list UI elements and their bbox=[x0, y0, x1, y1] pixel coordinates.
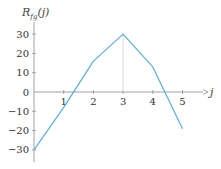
labels: 3020100−10−20−3012345Rfg(j)j bbox=[8, 6, 214, 155]
x-axis-arrow-icon bbox=[203, 90, 208, 95]
x-tick-label: 2 bbox=[90, 96, 96, 107]
y-tick-label: −30 bbox=[8, 144, 29, 155]
y-tick-label: −10 bbox=[8, 106, 29, 117]
x-tick-label: 4 bbox=[150, 96, 156, 107]
axes bbox=[32, 22, 208, 162]
cross-correlation-chart: 3020100−10−20−3012345Rfg(j)j bbox=[0, 0, 221, 169]
x-tick-label: 3 bbox=[120, 96, 126, 107]
y-tick-label: −20 bbox=[8, 125, 29, 136]
y-tick-label: 10 bbox=[16, 67, 29, 78]
y-tick-label: 20 bbox=[16, 48, 29, 59]
y-axis-title: Rfg(j) bbox=[21, 6, 49, 21]
y-tick-label: 30 bbox=[16, 29, 29, 40]
x-axis-title: j bbox=[207, 86, 214, 99]
y-tick-label: 0 bbox=[23, 87, 29, 98]
x-tick-label: 1 bbox=[61, 96, 67, 107]
x-tick-label: 5 bbox=[179, 96, 185, 107]
